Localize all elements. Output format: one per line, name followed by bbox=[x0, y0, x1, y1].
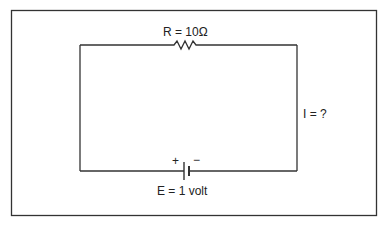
battery-minus-sign: − bbox=[193, 153, 200, 167]
current-label: I = ? bbox=[303, 107, 327, 121]
battery-plus-sign: + bbox=[172, 154, 179, 168]
battery-label: E = 1 volt bbox=[157, 184, 207, 198]
resistor-label: R = 10Ω bbox=[163, 25, 208, 39]
top-wire bbox=[80, 41, 297, 49]
